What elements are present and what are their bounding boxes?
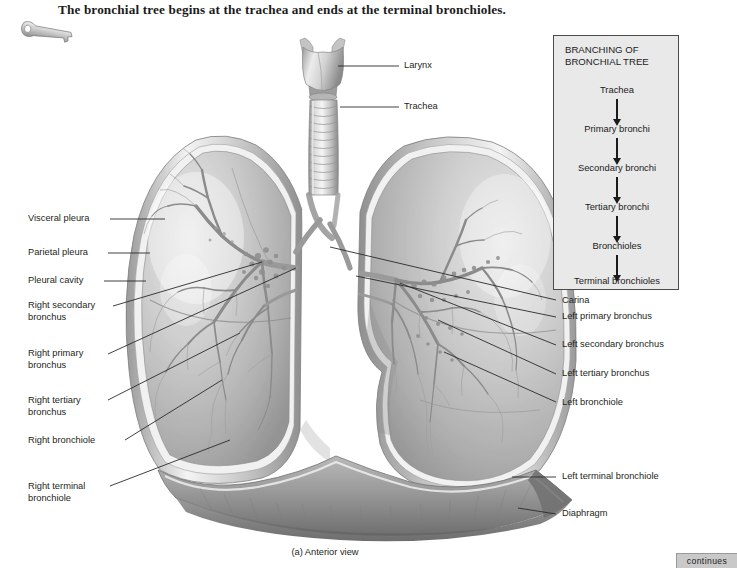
branching-flowchart: BRANCHING OF BRONCHIAL TREE Trachea Prim…	[553, 35, 679, 290]
flow-step-terminal-bronchioles: Terminal bronchioles	[554, 275, 680, 286]
figure-caption: (a) Anterior view	[0, 547, 650, 557]
label-left-primary-bronchus: Left primary bronchus	[562, 311, 652, 323]
label-parietal-pleura: Parietal pleura	[28, 247, 88, 259]
continues-tab: continues	[676, 553, 737, 568]
label-right-primary-bronchus: Right primary bronchus	[28, 348, 83, 371]
flowchart-heading: BRANCHING OF BRONCHIAL TREE	[565, 44, 675, 68]
flow-step-primary-bronchi: Primary bronchi	[554, 123, 680, 134]
label-right-bronchiole: Right bronchiole	[28, 435, 95, 447]
flow-arrow-1	[616, 99, 618, 120]
figure-page: The bronchial tree begins at the trachea…	[0, 0, 737, 568]
label-left-bronchiole: Left bronchiole	[562, 397, 623, 409]
flow-arrow-4	[616, 216, 618, 237]
right-lung	[126, 136, 302, 483]
label-right-secondary-bronchus: Right secondary bronchus	[28, 300, 95, 323]
label-visceral-pleura: Visceral pleura	[28, 213, 89, 225]
flow-arrow-5	[616, 255, 618, 276]
left-lung	[348, 137, 576, 494]
flow-step-secondary-bronchi: Secondary bronchi	[554, 162, 680, 173]
flow-arrow-2	[616, 138, 618, 159]
flow-step-trachea: Trachea	[554, 84, 680, 95]
label-left-secondary-bronchus: Left secondary bronchus	[562, 339, 664, 351]
flow-arrow-3	[616, 177, 618, 198]
label-right-terminal-bronchiole: Right terminal bronchiole	[28, 481, 85, 504]
label-pleural-cavity: Pleural cavity	[28, 275, 83, 287]
flow-step-tertiary-bronchi: Tertiary bronchi	[554, 201, 680, 212]
larynx-structure	[300, 38, 345, 101]
label-left-tertiary-bronchus: Left tertiary bronchus	[562, 368, 649, 380]
label-carina: Carina	[562, 295, 589, 307]
label-right-tertiary-bronchus: Right tertiary bronchus	[28, 395, 81, 418]
flow-step-bronchioles: Bronchioles	[554, 240, 680, 251]
trachea-structure	[309, 100, 339, 195]
label-larynx: Larynx	[404, 60, 432, 72]
label-trachea: Trachea	[404, 101, 438, 113]
label-left-terminal-bronchiole: Left terminal bronchiole	[562, 471, 659, 483]
label-diaphragm: Diaphragm	[562, 508, 607, 520]
